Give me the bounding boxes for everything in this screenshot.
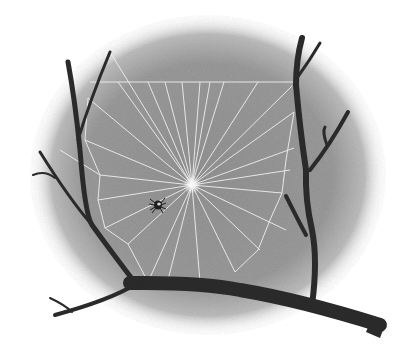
spider-web-illustration <box>0 0 415 362</box>
web-hub-glow <box>183 176 201 194</box>
